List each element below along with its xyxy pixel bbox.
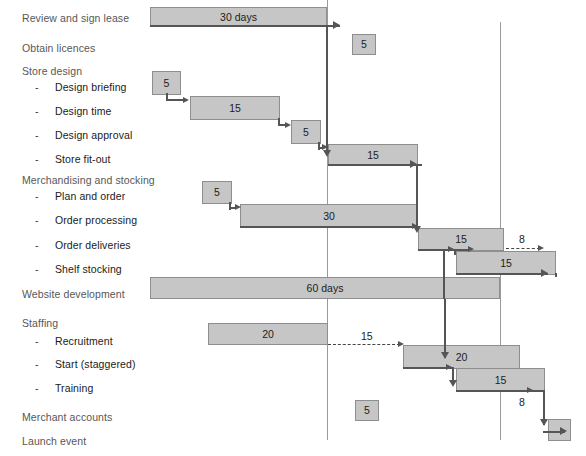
task-label-staffing: Staffing: [22, 317, 58, 329]
dependency-arrow-lease-down: [323, 150, 331, 157]
task-bar-obtain-licences[interactable]: 5: [352, 34, 376, 55]
task-label-merchant-accounts: Merchant accounts: [22, 411, 112, 423]
dependency-link-lease-to-fitout-h: [150, 25, 340, 27]
task-bar-label: 20: [456, 352, 468, 363]
bullet-dash-recruitment: -: [35, 335, 39, 347]
dependency-link-stocking-h: [456, 273, 548, 275]
task-label-merchandising-and-stocking: Merchandising and stocking: [22, 174, 155, 186]
dependency-arrow-deliveries-right-2: [468, 246, 474, 252]
task-label-design-approval: Design approval: [55, 129, 132, 141]
task-bar-label: 15: [495, 375, 507, 386]
task-bar-label: 15: [367, 150, 379, 161]
float-label-training: 8: [519, 396, 525, 408]
task-bar-plan-and-order[interactable]: 5: [202, 181, 232, 204]
bullet-dash-plan-and-order: -: [35, 190, 39, 202]
task-label-store-fit-out: Store fit-out: [55, 153, 111, 165]
dependency-link-stocking-to-training-v: [555, 273, 557, 277]
task-bar-merchant-accounts[interactable]: 5: [355, 400, 379, 421]
dependency-arrow-to-start-down: [441, 352, 449, 359]
dependency-link-deliveries-to-stocking-v: [454, 249, 456, 255]
task-bar-design-briefing[interactable]: 5: [152, 71, 181, 95]
dependency-arrow-start-down: [449, 380, 457, 387]
dependency-arrow-processing-right: [412, 223, 418, 229]
dependency-link-briefing-to-time-h: [166, 99, 184, 101]
task-label-plan-and-order: Plan and order: [55, 190, 125, 202]
task-bar-label: 30: [323, 211, 335, 222]
task-bar-label: 5: [303, 127, 309, 138]
dependency-arrow-launch-right: [560, 427, 567, 435]
task-bar-website-development[interactable]: 60 days: [150, 277, 500, 299]
task-label-website-development: Website development: [22, 288, 125, 300]
float-label-order-deliveries: 8: [519, 233, 525, 245]
bullet-dash-design-approval: -: [35, 129, 39, 141]
task-bar-label: 60 days: [307, 283, 344, 294]
bullet-dash-training: -: [35, 382, 39, 394]
float-arrow-recruitment: [398, 341, 404, 347]
task-bar-store-fit-out[interactable]: 15: [328, 144, 418, 166]
bullet-dash-start-staggered: -: [35, 358, 39, 370]
task-bar-start-staggered[interactable]: 20: [403, 345, 520, 369]
task-label-design-time: Design time: [55, 105, 112, 117]
bullet-dash-shelf-stocking: -: [35, 263, 39, 275]
task-bar-label: 15: [500, 258, 512, 269]
dependency-arrow-plan-right: [235, 204, 241, 210]
task-bar-recruitment[interactable]: 20: [208, 323, 328, 345]
task-bar-label: 15: [455, 234, 467, 245]
float-link-recruitment: [328, 344, 400, 345]
bullet-dash-store-fit-out: -: [35, 153, 39, 165]
task-label-order-deliveries: Order deliveries: [55, 239, 131, 251]
bullet-dash-order-deliveries: -: [35, 239, 39, 251]
dependency-arrow-approval-right: [322, 144, 328, 150]
bullet-dash-order-processing: -: [35, 214, 39, 226]
task-bar-label: 5: [361, 39, 367, 50]
task-bar-label: 20: [262, 329, 274, 340]
dependency-link-website-v: [443, 250, 445, 299]
float-label-recruitment: 15: [361, 330, 373, 342]
task-bar-label: 30 days: [220, 12, 257, 23]
bullet-dash-design-briefing: -: [35, 81, 39, 93]
dependency-link-fitout-h: [328, 164, 422, 166]
task-bar-review-and-sign-lease[interactable]: 30 days: [150, 7, 327, 27]
dependency-arrow-briefing-right: [183, 97, 189, 103]
task-label-store-design: Store design: [22, 65, 82, 77]
dependency-link-processing-h: [240, 226, 416, 228]
task-bar-label: 5: [164, 78, 170, 89]
task-label-order-processing: Order processing: [55, 214, 137, 226]
task-bar-order-deliveries[interactable]: 15: [418, 228, 504, 251]
task-label-shelf-stocking: Shelf stocking: [55, 263, 122, 275]
task-label-training: Training: [55, 382, 93, 394]
task-label-launch-event: Launch event: [22, 435, 86, 447]
task-bar-label: 5: [364, 405, 370, 416]
dependency-link-fitout-to-deliveries-v: [416, 164, 418, 230]
dependency-arrow-training-down: [540, 419, 548, 426]
task-bar-design-approval[interactable]: 5: [291, 120, 321, 144]
task-bar-label: 5: [214, 187, 220, 198]
task-label-recruitment: Recruitment: [55, 335, 113, 347]
task-label-obtain-licences: Obtain licences: [22, 42, 95, 54]
task-bar-design-time[interactable]: 15: [190, 96, 280, 120]
gantt-chart: Review and sign lease Obtain licences St…: [0, 0, 586, 456]
task-label-review-and-sign-lease: Review and sign lease: [22, 12, 129, 24]
bullet-dash-design-time: -: [35, 105, 39, 117]
float-link-order-deliveries: [506, 248, 540, 249]
dependency-link-lease-to-fitout-v: [326, 25, 328, 155]
task-bar-label: 15: [229, 103, 241, 114]
dependency-arrow-lease-right: [333, 21, 340, 29]
task-bar-order-processing[interactable]: 30: [240, 204, 418, 228]
float-arrow-order-deliveries: [538, 245, 544, 251]
dependency-arrow-training-right: [527, 387, 533, 393]
dependency-link-to-start-v: [444, 299, 446, 358]
dependency-arrow-time-right: [285, 122, 291, 128]
task-label-design-briefing: Design briefing: [55, 81, 127, 93]
dependency-arrow-stocking-right: [541, 269, 548, 277]
task-label-start-staggered: Start (staggered): [55, 358, 136, 370]
